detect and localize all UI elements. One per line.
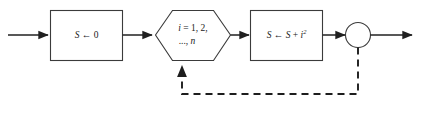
node-junction-circle[interactable] [346, 23, 371, 48]
loop-hexagon-line1: i = 1, 2, [178, 23, 207, 33]
loop-hexagon-line2: ..., n [179, 36, 196, 46]
node-loop-hexagon[interactable]: i = 1, 2, ..., n [156, 11, 231, 61]
flowchart-svg: S ← 0 i = 1, 2, ..., n S ← S + i2 [0, 0, 422, 114]
accumulate-box-label: S ← S + i2 [267, 27, 308, 39]
node-init-box[interactable]: S ← 0 [51, 11, 123, 61]
flowchart-canvas: S ← 0 i = 1, 2, ..., n S ← S + i2 [0, 0, 422, 114]
init-box-label: S ← 0 [75, 30, 99, 40]
node-accumulate-box[interactable]: S ← S + i2 [251, 11, 323, 61]
